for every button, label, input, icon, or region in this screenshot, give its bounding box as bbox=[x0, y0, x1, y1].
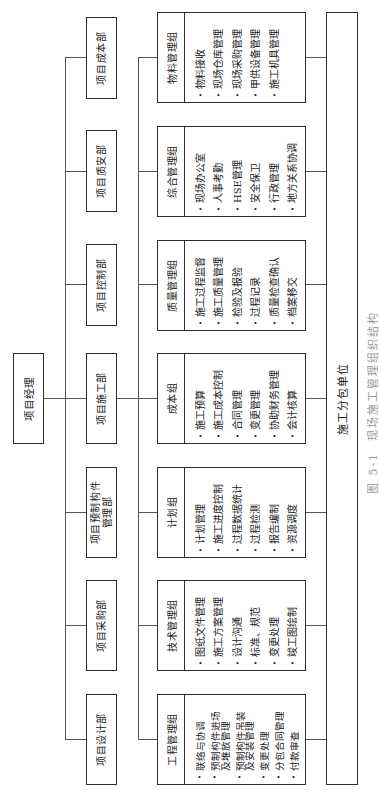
list-item: 合同管理 bbox=[229, 354, 247, 443]
list-item: HSE管理 bbox=[229, 127, 247, 216]
list-item: 施工预算 bbox=[192, 354, 210, 443]
group-title: 物料管理组 bbox=[158, 13, 185, 102]
list-item: 报告编制 bbox=[266, 468, 284, 557]
list-item: 施工进度控制 bbox=[210, 468, 228, 557]
connector-group-stub bbox=[138, 398, 157, 399]
department-label: 项目成本部 bbox=[96, 32, 108, 85]
department-quality-safety: 项目质安部 bbox=[86, 130, 117, 212]
list-item: 现场采购管理 bbox=[229, 13, 247, 102]
group-item-list: 现场办公室 人事考勤 HSE管理 安全保卫 行政管理 地方关系协调 bbox=[185, 127, 302, 216]
list-item: 档案移交 bbox=[284, 241, 302, 330]
department-label: 项目控制部 bbox=[96, 259, 108, 312]
list-item: 资源调度 bbox=[284, 468, 302, 557]
list-item: 检验及报验 bbox=[229, 241, 247, 330]
list-item: 施工机具管理 bbox=[266, 13, 284, 102]
department-design: 项目设计部 bbox=[86, 694, 117, 785]
list-item: 人事考勤 bbox=[210, 127, 228, 216]
list-item: 施工过程监督 bbox=[192, 241, 210, 330]
group-engineering: 工程管理组 联络与协调 预制构件进场 及堆放管理 预制构件吊装 及安装管理 变更… bbox=[157, 694, 306, 785]
org-chart: 项目经理 项目设计部 项目采购部 项目预制构件 管理部 项目施工部 项目控制部 … bbox=[0, 0, 379, 790]
list-item: 物料接收 bbox=[192, 13, 210, 102]
group-general-admin: 综合管理组 现场办公室 人事考勤 HSE管理 安全保卫 行政管理 地方关系协调 bbox=[157, 126, 306, 217]
connector-group-stub bbox=[138, 625, 157, 626]
subcontractor-label: 施工分包单位 bbox=[334, 363, 350, 435]
connector-group-to-sub bbox=[306, 739, 326, 740]
list-item: 付款审查 bbox=[290, 695, 300, 784]
group-item-list: 施工过程监督 施工质量管理 检验及报验 过程记录 质量检查确认 档案移交 bbox=[185, 241, 302, 330]
list-item: 施工质量管理 bbox=[210, 241, 228, 330]
group-quality: 质量管理组 施工过程监督 施工质量管理 检验及报验 过程记录 质量检查确认 档案… bbox=[157, 240, 306, 331]
group-title: 计划组 bbox=[158, 468, 185, 557]
list-item: 变更处理 bbox=[266, 581, 284, 670]
group-title: 技术管理组 bbox=[158, 581, 185, 670]
group-title: 综合管理组 bbox=[158, 127, 185, 216]
department-label: 项目预制构件 管理部 bbox=[90, 481, 114, 545]
connector-group-stub bbox=[138, 512, 157, 513]
list-item: 变更管理 bbox=[247, 354, 265, 443]
department-label: 项目采购部 bbox=[96, 599, 108, 652]
group-item-list: 图纸文件管理 施工方案管理 设计沟通 标准、规范 变更处理 竣工图绘制 bbox=[185, 581, 302, 670]
connector-group-stub bbox=[138, 171, 157, 172]
figure-caption: 图 5-1 现场施工管理组织结构 bbox=[364, 15, 379, 790]
list-item: 施工方案管理 bbox=[210, 581, 228, 670]
department-label: 项目施工部 bbox=[96, 372, 108, 425]
list-item: 分包合同管理 bbox=[275, 695, 285, 784]
group-materials: 物料管理组 物料接收 现场仓库管理 现场采购管理 甲供设备管理 施工机具管理 bbox=[157, 12, 306, 103]
group-planning: 计划组 计划管理 施工进度控制 过程数据统计 过程检测 报告编制 资源调度 bbox=[157, 467, 306, 558]
list-item: 设计沟通 bbox=[229, 581, 247, 670]
connector-construction-dept-down bbox=[117, 398, 138, 399]
list-item: 安全保卫 bbox=[247, 127, 265, 216]
connector-dept-stub bbox=[65, 398, 86, 399]
department-label: 项目设计部 bbox=[96, 713, 108, 766]
connector-group-to-sub bbox=[306, 57, 326, 58]
connector-dept-stub bbox=[65, 625, 86, 626]
list-item: 预制构件吊装 及安装管理 bbox=[236, 695, 255, 784]
connector-dept-stub bbox=[65, 739, 86, 740]
project-manager-box: 项目经理 bbox=[13, 353, 44, 444]
department-label: 项目质安部 bbox=[96, 145, 108, 198]
group-item-list: 计划管理 施工进度控制 过程数据统计 过程检测 报告编制 资源调度 bbox=[185, 468, 302, 557]
group-item-list: 物料接收 现场仓库管理 现场采购管理 甲供设备管理 施工机具管理 bbox=[185, 13, 284, 102]
list-item: 联络与协调 bbox=[196, 695, 206, 784]
group-cost: 成本组 施工预算 施工成本控制 合同管理 变更管理 协助财务管理 会计核算 bbox=[157, 353, 306, 444]
list-item: 行政管理 bbox=[266, 127, 284, 216]
connector-group-to-sub bbox=[306, 171, 326, 172]
connector-dept-stub bbox=[65, 512, 86, 513]
group-technical: 技术管理组 图纸文件管理 施工方案管理 设计沟通 标准、规范 变更处理 竣工图绘… bbox=[157, 580, 306, 671]
department-prefab: 项目预制构件 管理部 bbox=[86, 467, 117, 558]
list-item: 变更处理 bbox=[260, 695, 270, 784]
group-item-list: 施工预算 施工成本控制 合同管理 变更管理 协助财务管理 会计核算 bbox=[185, 354, 302, 443]
connector-group-to-sub bbox=[306, 398, 326, 399]
connector-dept-stub bbox=[65, 57, 86, 58]
list-item: 会计核算 bbox=[284, 354, 302, 443]
list-item: 过程记录 bbox=[247, 241, 265, 330]
list-item: 图纸文件管理 bbox=[192, 581, 210, 670]
connector-group-to-sub bbox=[306, 512, 326, 513]
connector-dept-stub bbox=[65, 284, 86, 285]
list-item: 现场办公室 bbox=[192, 127, 210, 216]
list-item: 施工成本控制 bbox=[210, 354, 228, 443]
connector-pm-down bbox=[44, 398, 65, 399]
connector-group-stub bbox=[138, 284, 157, 285]
department-procurement: 项目采购部 bbox=[86, 580, 117, 671]
list-item: 标准、规范 bbox=[247, 581, 265, 670]
department-construction: 项目施工部 bbox=[86, 353, 117, 444]
list-item: 过程数据统计 bbox=[229, 468, 247, 557]
group-title: 成本组 bbox=[158, 354, 185, 443]
project-manager-label: 项目经理 bbox=[21, 377, 36, 421]
list-item: 质量检查确认 bbox=[266, 241, 284, 330]
connector-dept-stub bbox=[65, 171, 86, 172]
list-item: 甲供设备管理 bbox=[247, 13, 265, 102]
list-item: 预制构件进场 及堆放管理 bbox=[211, 695, 230, 784]
connector-group-to-sub bbox=[306, 284, 326, 285]
list-item: 现场仓库管理 bbox=[210, 13, 228, 102]
connector-group-stub bbox=[138, 739, 157, 740]
list-item: 过程检测 bbox=[247, 468, 265, 557]
subcontractor-box: 施工分包单位 bbox=[326, 12, 358, 785]
connector-group-to-sub bbox=[306, 625, 326, 626]
group-item-list: 联络与协调 预制构件进场 及堆放管理 预制构件吊装 及安装管理 变更处理 分包合… bbox=[185, 695, 305, 784]
list-item: 竣工图绘制 bbox=[284, 581, 302, 670]
list-item: 计划管理 bbox=[192, 468, 210, 557]
list-item: 地方关系协调 bbox=[284, 127, 302, 216]
connector-group-stub bbox=[138, 57, 157, 58]
